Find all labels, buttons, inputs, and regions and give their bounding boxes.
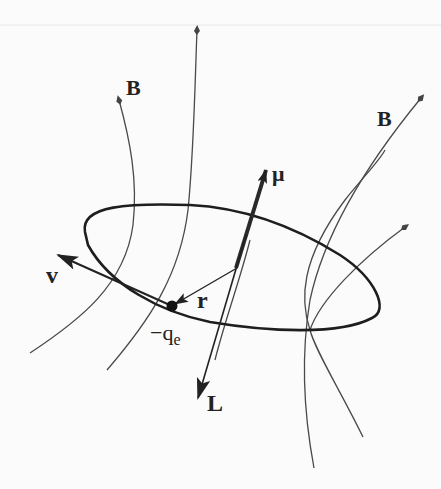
label-field-left: B bbox=[126, 75, 141, 100]
field-line-1 bbox=[30, 100, 135, 353]
field-line-6 bbox=[305, 150, 385, 330]
charge-dot bbox=[167, 301, 178, 312]
angular-momentum-vector bbox=[198, 235, 246, 398]
field-line-5 bbox=[310, 227, 405, 437]
label-moment: μ bbox=[272, 161, 285, 186]
orbit-ellipse bbox=[85, 204, 380, 330]
field-line-4 bbox=[304, 98, 421, 468]
label-radius: r bbox=[197, 287, 208, 313]
field-line-2 bbox=[107, 30, 197, 370]
label-charge-main: −q bbox=[150, 320, 173, 345]
field-lines bbox=[30, 30, 421, 468]
label-velocity: v bbox=[46, 262, 58, 288]
velocity-vector bbox=[58, 255, 172, 306]
label-charge-sub: e bbox=[173, 331, 180, 348]
label-charge: −qe bbox=[150, 320, 181, 348]
label-field-right: B bbox=[377, 106, 392, 131]
label-angular-momentum: L bbox=[207, 390, 223, 416]
diagram-canvas: B B μ v r −qe L bbox=[0, 0, 441, 489]
field-line-3 bbox=[215, 240, 250, 360]
